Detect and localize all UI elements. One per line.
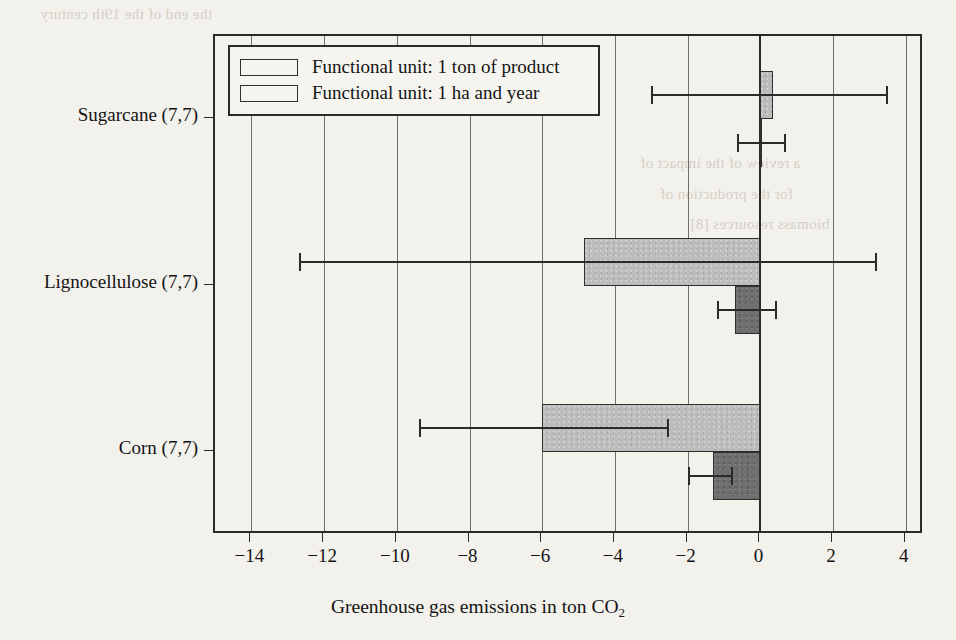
x-axis-tick: [831, 533, 832, 542]
error-bar-cap-high: [667, 419, 669, 437]
error-bar-cap-low: [651, 86, 653, 104]
gridline: [833, 36, 834, 531]
x-axis-tick-label: −6: [530, 545, 550, 567]
x-axis-tick: [395, 533, 396, 542]
error-bar-cap-high: [886, 86, 888, 104]
x-axis-tick: [904, 533, 905, 542]
legend-label: Functional unit: 1 ha and year: [312, 82, 539, 104]
error-bar-cap-high: [875, 253, 877, 271]
x-axis-tick: [613, 533, 614, 542]
legend-item: Functional unit: 1 ha and year: [240, 80, 588, 106]
y-axis-tick: [204, 117, 213, 118]
x-axis-tick-label: −2: [676, 545, 696, 567]
x-axis-tick-label: 2: [826, 545, 836, 567]
error-bar-line: [717, 309, 777, 311]
x-axis-tick-label: −14: [234, 545, 264, 567]
legend-swatch-ton-of-product: [240, 59, 298, 76]
y-axis-tick: [204, 450, 213, 451]
x-axis-tick-label: −4: [603, 545, 623, 567]
legend-swatch-ha-and-year: [240, 85, 298, 102]
x-axis-tick-label: 0: [754, 545, 764, 567]
error-bar-line: [299, 261, 877, 263]
y-axis-category-label: Lignocellulose (7,7): [44, 271, 198, 293]
error-bar: [651, 86, 887, 104]
x-axis-title-main: Greenhouse gas emissions in ton CO: [331, 596, 619, 617]
gridline: [906, 36, 907, 531]
error-bar-cap-low: [688, 467, 690, 485]
legend-label: Functional unit: 1 ton of product: [312, 56, 560, 78]
y-axis-category-label: Corn (7,7): [119, 437, 198, 459]
x-axis-tick-label: −10: [380, 545, 410, 567]
error-bar-cap-low: [717, 301, 719, 319]
error-bar: [717, 301, 777, 319]
x-axis-tick: [468, 533, 469, 542]
x-axis-title: Greenhouse gas emissions in ton CO2: [0, 596, 956, 618]
x-axis-tick: [540, 533, 541, 542]
error-bar-cap-high: [784, 134, 786, 152]
x-axis-tick-label: −8: [457, 545, 477, 567]
error-bar: [419, 419, 670, 437]
figure: −14−12−10−8−6−4−2024 Sugarcane (7,7)Lign…: [0, 0, 956, 640]
y-axis-tick: [204, 284, 213, 285]
error-bar-line: [737, 142, 786, 144]
y-axis-category-label: Sugarcane (7,7): [78, 104, 198, 126]
x-axis-tick-label: −12: [307, 545, 337, 567]
error-bar-cap-low: [299, 253, 301, 271]
error-bar-cap-low: [419, 419, 421, 437]
error-bar: [688, 467, 733, 485]
error-bar-cap-high: [731, 467, 733, 485]
x-axis-tick: [249, 533, 250, 542]
legend: Functional unit: 1 ton of product Functi…: [228, 45, 600, 116]
x-axis-tick: [686, 533, 687, 542]
legend-item: Functional unit: 1 ton of product: [240, 54, 588, 80]
x-axis-title-subscript: 2: [619, 605, 626, 620]
error-bar: [737, 134, 786, 152]
error-bar: [299, 253, 877, 271]
x-axis-tick: [758, 533, 759, 542]
error-bar-line: [651, 94, 887, 96]
error-bar-line: [419, 427, 670, 429]
error-bar-cap-high: [775, 301, 777, 319]
x-axis-tick: [322, 533, 323, 542]
error-bar-line: [688, 475, 733, 477]
error-bar-cap-low: [737, 134, 739, 152]
x-axis-tick-label: 4: [899, 545, 909, 567]
